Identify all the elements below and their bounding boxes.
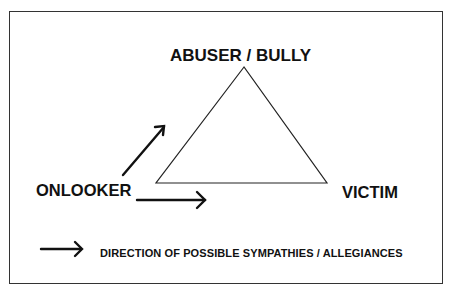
triangle xyxy=(156,67,327,183)
arrow-to-abuser-icon xyxy=(123,126,164,175)
legend-text: DIRECTION OF POSSIBLE SYMPATHIES / ALLEG… xyxy=(100,248,403,259)
node-onlooker: ONLOOKER xyxy=(36,182,131,199)
legend-arrow-icon xyxy=(41,242,82,256)
arrow-to-victim-icon xyxy=(137,192,205,208)
node-abuser-bully: ABUSER / BULLY xyxy=(170,47,311,64)
node-victim: VICTIM xyxy=(342,184,398,201)
